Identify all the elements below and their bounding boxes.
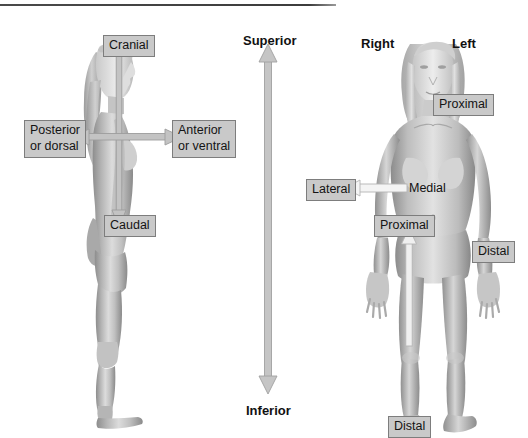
label-distal-leg: Distal	[388, 416, 431, 438]
anatomical-directions-figure: Cranial Caudal Posterior or dorsal Anter…	[0, 0, 528, 438]
label-left-side: Left	[452, 36, 476, 51]
label-distal-leg-text: Distal	[394, 419, 425, 433]
distal-to-proximal-arrow	[400, 228, 418, 346]
label-anterior-line2: or ventral	[178, 139, 230, 155]
label-distal-arm: Distal	[472, 241, 515, 263]
label-proximal-leg: Proximal	[374, 215, 435, 237]
label-superior: Superior	[243, 33, 296, 48]
label-anterior-line1: Anterior	[178, 123, 230, 139]
label-caudal: Caudal	[104, 215, 156, 237]
label-proximal-leg-text: Proximal	[380, 218, 429, 232]
label-posterior-or-dorsal: Posterior or dorsal	[24, 120, 86, 158]
label-posterior-line2: or dorsal	[30, 139, 80, 155]
superior-inferior-double-arrow	[257, 44, 279, 394]
label-right-side: Right	[361, 36, 394, 51]
label-inferior: Inferior	[246, 403, 291, 418]
label-distal-arm-text: Distal	[478, 244, 509, 258]
label-anterior-or-ventral: Anterior or ventral	[172, 120, 236, 158]
posterior-anterior-double-arrow	[72, 126, 182, 148]
label-lateral: Lateral	[306, 179, 356, 201]
label-cranial-text: Cranial	[109, 38, 149, 52]
label-proximal-arm: Proximal	[433, 94, 494, 116]
label-caudal-text: Caudal	[110, 218, 150, 232]
label-posterior-line1: Posterior	[30, 123, 80, 139]
label-proximal-arm-text: Proximal	[439, 97, 488, 111]
label-cranial: Cranial	[103, 35, 155, 57]
label-lateral-text: Lateral	[312, 182, 350, 196]
top-divider-rule	[0, 4, 336, 6]
label-medial: Medial	[409, 181, 446, 195]
